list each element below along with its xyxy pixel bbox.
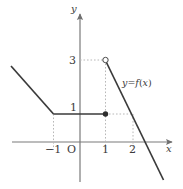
axis-group bbox=[12, 14, 172, 182]
curve-label-close-paren: ) bbox=[148, 77, 152, 88]
curve-equation-label: y=f(x) bbox=[122, 78, 152, 88]
guide-line-group bbox=[54, 60, 134, 150]
y-tick-label-1: 1 bbox=[70, 102, 77, 113]
x-tick-label-1: 1 bbox=[102, 144, 109, 155]
open-endpoint-dot bbox=[103, 57, 108, 62]
function-graph-figure: y x O −1 1 2 1 3 y=f(x) bbox=[0, 0, 183, 189]
x-axis-label: x bbox=[166, 144, 172, 154]
plot-canvas bbox=[0, 0, 183, 189]
filled-endpoint-dot bbox=[103, 111, 108, 116]
x-tick-label-neg1: −1 bbox=[45, 144, 61, 155]
origin-label: O bbox=[67, 144, 76, 155]
x-tick-label-2: 2 bbox=[129, 144, 136, 155]
y-tick-label-3: 3 bbox=[69, 55, 76, 66]
curve-branch-left bbox=[11, 66, 54, 114]
y-axis-label: y bbox=[71, 4, 77, 14]
